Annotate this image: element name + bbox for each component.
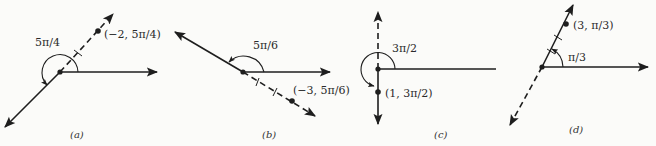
point-label: (−2, 5π/4) bbox=[104, 28, 161, 41]
unit-tick bbox=[256, 78, 259, 86]
panel-caption: (c) bbox=[434, 129, 448, 140]
pole-point bbox=[375, 66, 380, 71]
point-label: (3, π/3) bbox=[573, 19, 614, 32]
plotted-point bbox=[289, 98, 295, 104]
terminal-ray bbox=[175, 32, 243, 72]
terminal-ray bbox=[5, 72, 60, 127]
panel-caption: (d) bbox=[569, 124, 583, 135]
angle-arc bbox=[552, 49, 563, 67]
opposite-ray-dashed bbox=[510, 67, 542, 125]
polar-coordinates-figure: 5π/4 (−2, 5π/4) (a) 5π/6 (−3, 5π/6) (b) … bbox=[0, 0, 656, 146]
angle-arc bbox=[229, 56, 264, 72]
plotted-point bbox=[375, 89, 381, 95]
pole-point bbox=[539, 64, 544, 69]
angle-label: π/3 bbox=[568, 51, 586, 64]
angle-label: 5π/4 bbox=[35, 36, 60, 49]
panel-c: 3π/2 (1, 3π/2) (c) bbox=[361, 12, 496, 140]
unit-tick bbox=[273, 88, 277, 96]
panel-caption: (b) bbox=[262, 129, 276, 140]
point-label: (1, 3π/2) bbox=[385, 87, 433, 100]
pole-point bbox=[240, 69, 245, 74]
panel-b: 5π/6 (−3, 5π/6) (b) bbox=[175, 32, 350, 140]
pole-point bbox=[57, 69, 62, 74]
panel-d: π/3 (3, π/3) (d) bbox=[510, 5, 648, 135]
opposite-ray-dashed bbox=[60, 14, 113, 72]
angle-label: 5π/6 bbox=[253, 39, 278, 52]
angle-label: 3π/2 bbox=[392, 42, 417, 55]
point-label: (−3, 5π/6) bbox=[293, 84, 350, 97]
panel-a: 5π/4 (−2, 5π/4) (a) bbox=[5, 14, 161, 140]
panel-caption: (a) bbox=[70, 129, 84, 140]
plotted-point bbox=[95, 28, 101, 34]
plotted-point bbox=[563, 21, 569, 27]
